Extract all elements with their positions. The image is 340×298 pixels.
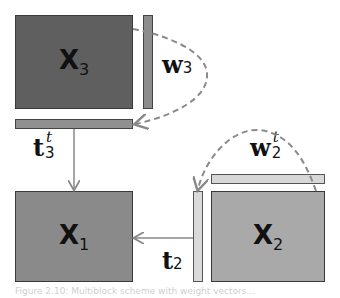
dashed-arrow-x3-w3-t3 [133, 29, 207, 124]
connectors [0, 0, 340, 298]
dashed-arrow-x2-w2-t2 [198, 130, 316, 191]
figure-caption: Figure 2.10: Multiblock scheme with weig… [15, 286, 255, 296]
